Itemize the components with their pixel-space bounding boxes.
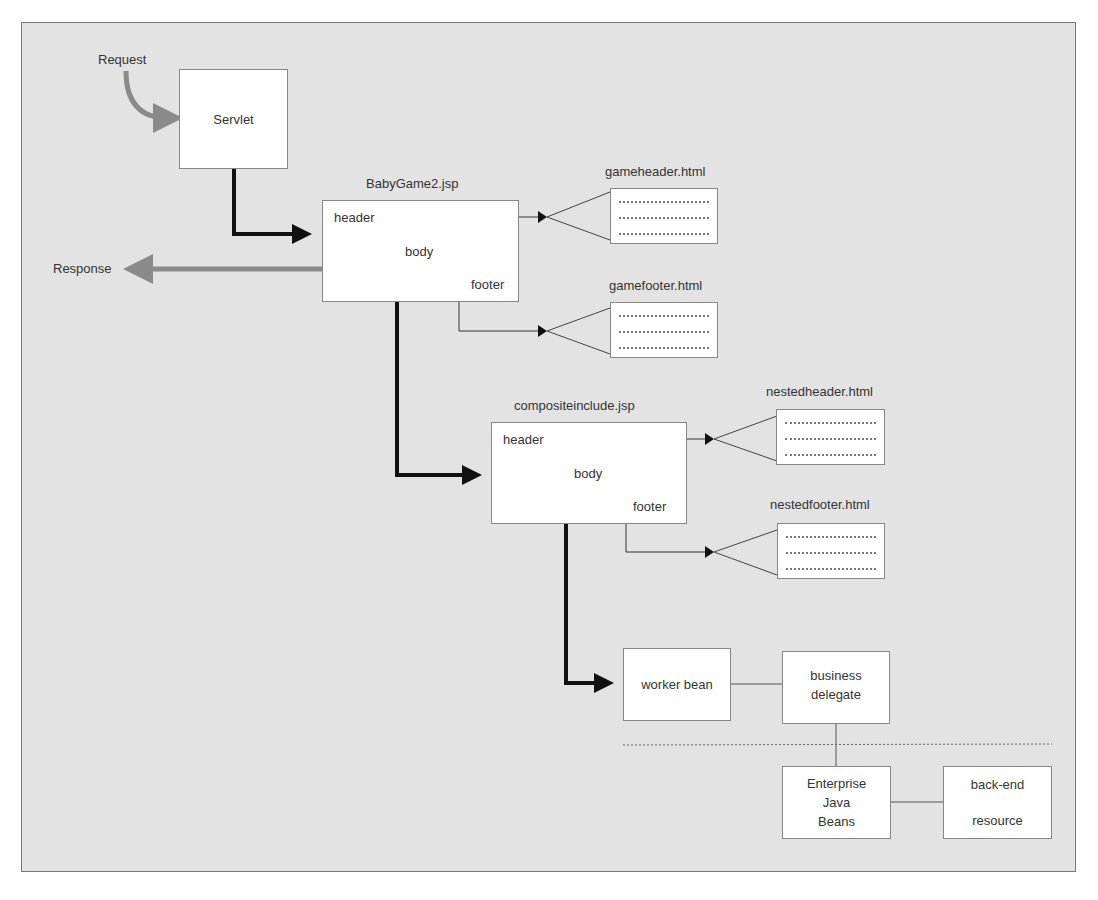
- babygame-title: BabyGame2.jsp: [366, 176, 459, 191]
- composite-box[interactable]: header body footer: [491, 422, 687, 524]
- nestedfooter-document[interactable]: [777, 523, 885, 579]
- babygame-header-label: header: [334, 210, 374, 225]
- response-label: Response: [53, 261, 112, 276]
- composite-to-worker-arrow: [566, 520, 606, 683]
- backend-line1: back-end: [971, 775, 1024, 794]
- babygame-body-label: body: [405, 244, 433, 259]
- composite-header-label: header: [503, 432, 543, 447]
- nestedheader-title: nestedheader.html: [766, 384, 873, 399]
- servlet-box[interactable]: Servlet: [179, 69, 288, 169]
- gameheader-document[interactable]: [610, 188, 718, 244]
- request-label: Request: [98, 52, 146, 67]
- business-delegate-line1: business: [810, 666, 861, 685]
- backend-line2: resource: [972, 811, 1023, 830]
- business-delegate-line2: delegate: [811, 685, 861, 704]
- business-delegate-box[interactable]: business delegate: [782, 651, 890, 724]
- servlet-label: Servlet: [213, 110, 253, 129]
- ejb-line1: Enterprise: [807, 774, 866, 793]
- tier-separator: [623, 744, 1052, 745]
- gamefooter-document[interactable]: [610, 302, 718, 358]
- babygame-to-composite-arrow: [397, 302, 474, 475]
- babygame-box[interactable]: header body footer: [322, 200, 519, 302]
- request-arrow: [126, 71, 168, 118]
- composite-footer-label: footer: [633, 499, 666, 514]
- nestedheader-document[interactable]: [776, 409, 885, 465]
- worker-bean-label: worker bean: [641, 675, 713, 694]
- gameheader-title: gameheader.html: [605, 164, 705, 179]
- ejb-box[interactable]: Enterprise Java Beans: [782, 766, 891, 839]
- ejb-line2: Java: [823, 793, 850, 812]
- gamefooter-title: gamefooter.html: [609, 278, 702, 293]
- worker-bean-box[interactable]: worker bean: [623, 648, 731, 721]
- composite-title: compositeinclude.jsp: [514, 398, 635, 413]
- babygame-footer-label: footer: [471, 277, 504, 292]
- nestedfooter-title: nestedfooter.html: [770, 497, 870, 512]
- composite-body-label: body: [574, 466, 602, 481]
- backend-resource-box[interactable]: back-end resource: [943, 766, 1052, 839]
- ejb-line3: Beans: [818, 812, 855, 831]
- servlet-to-babygame-arrow: [234, 168, 304, 234]
